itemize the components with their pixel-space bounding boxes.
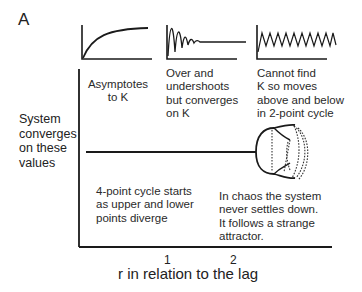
- caption-line: undershoots: [166, 80, 238, 93]
- caption-line: Cannot find: [257, 67, 344, 80]
- annotation-line: points diverge: [96, 212, 194, 225]
- y-axis-label: System converges on these values: [19, 112, 77, 170]
- caption-line: Asymptotes: [78, 78, 158, 91]
- two-point-cycle-caption: Cannot find K so moves above and below i…: [257, 67, 344, 120]
- ylabel-line: on these: [19, 141, 77, 156]
- caption-line: above and below: [257, 94, 344, 107]
- ylabel-line: values: [19, 156, 77, 171]
- annotation-line: never settles down.: [219, 203, 321, 216]
- caption-line: Over and: [166, 67, 238, 80]
- chaos-annotation: In chaos the system never settles down. …: [219, 190, 321, 243]
- caption-line: K so moves: [257, 80, 344, 93]
- annotation-line: attractor.: [219, 230, 321, 243]
- two-point-cycle-inset: [257, 25, 336, 59]
- annotation-line: In chaos the system: [219, 190, 321, 203]
- damped-oscillation-caption: Over and undershoots but converges on K: [166, 67, 238, 120]
- four-point-cycle-annotation: 4-point cycle starts as upper and lower …: [96, 185, 194, 225]
- ylabel-line: converges: [19, 127, 77, 142]
- asymptote-caption: Asymptotes to K: [78, 78, 158, 105]
- bifurcation-curve: [86, 125, 295, 178]
- caption-line: in 2-point cycle: [257, 107, 344, 120]
- annotation-line: as upper and lower: [96, 198, 194, 211]
- ylabel-line: System: [19, 112, 77, 127]
- annotation-line: It follows a strange: [219, 217, 321, 230]
- damped-oscillation-inset: [167, 25, 246, 59]
- asymptote-inset: [82, 25, 152, 59]
- x-axis-label: r in relation to the lag: [118, 265, 258, 282]
- caption-line: but converges: [166, 94, 238, 107]
- caption-line: on K: [166, 107, 238, 120]
- annotation-line: 4-point cycle starts: [96, 185, 194, 198]
- caption-line: to K: [78, 91, 158, 104]
